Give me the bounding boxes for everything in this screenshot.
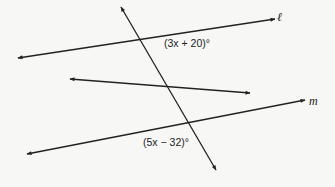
- line-m-label: m: [309, 94, 318, 109]
- diagram-lines: [0, 0, 335, 187]
- angle-top-label: (3x + 20)°: [164, 37, 210, 49]
- geometry-diagram: ℓ m (3x + 20)° (5x − 32)°: [0, 0, 335, 187]
- line-middle: [70, 79, 250, 93]
- angle-bottom-label: (5x − 32)°: [143, 136, 189, 148]
- line-l-label: ℓ: [277, 10, 282, 25]
- line-l: [18, 19, 275, 58]
